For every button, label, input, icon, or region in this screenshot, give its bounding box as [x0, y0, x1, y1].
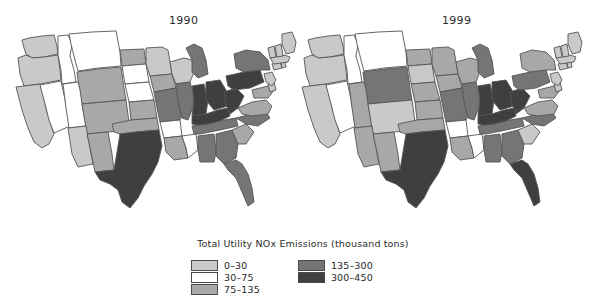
- legend-label: 30–75: [224, 272, 254, 283]
- state-me: [568, 32, 582, 54]
- legend-caption: Total Utility NOx Emissions (thousand to…: [0, 238, 606, 249]
- state-ar: [446, 120, 468, 138]
- state-wy: [363, 67, 412, 104]
- state-ar: [160, 120, 182, 138]
- state-mt: [69, 31, 121, 71]
- state-nh: [561, 44, 569, 57]
- state-wa: [22, 35, 58, 58]
- map-title-1999: 1999: [442, 14, 471, 27]
- state-vt: [268, 46, 276, 58]
- state-ks: [415, 100, 443, 120]
- legend-swatch: [191, 284, 218, 295]
- state-fl: [510, 160, 540, 206]
- legend-label: 300–450: [331, 272, 373, 283]
- state-mt: [355, 31, 407, 71]
- legend-swatch: [298, 260, 325, 271]
- choropleth-map-1990: [2, 30, 302, 235]
- legend-label: 75–135: [224, 284, 260, 295]
- state-fl: [224, 160, 254, 206]
- state-nh: [275, 44, 283, 57]
- state-wa: [308, 35, 344, 58]
- legend-swatch: [298, 272, 325, 283]
- legend-label: 0–30: [224, 260, 247, 271]
- state-nd: [120, 49, 146, 66]
- state-pa: [226, 70, 264, 90]
- state-nd: [406, 49, 432, 66]
- legend-columns: 0–3030–7575–135135–300300–450: [191, 259, 373, 295]
- legend-item: 30–75: [191, 271, 260, 283]
- legend-swatch: [191, 260, 218, 271]
- legend-item: 300–450: [298, 271, 373, 283]
- figure-root: 1990 1999 Total Utility NOx Emissions (t…: [0, 0, 606, 307]
- state-nm: [373, 132, 400, 172]
- map-svg-1990: [2, 30, 302, 235]
- state-va: [238, 100, 272, 116]
- state-mn: [432, 47, 458, 76]
- state-va: [524, 100, 558, 116]
- legend-column-2: 135–300300–450: [298, 259, 373, 283]
- state-or: [18, 55, 61, 86]
- state-ks: [129, 100, 157, 120]
- state-sd: [408, 64, 435, 84]
- legend-item: 0–30: [191, 259, 260, 271]
- legend-item: 75–135: [191, 283, 260, 295]
- choropleth-map-1999: [288, 30, 588, 235]
- state-nm: [87, 132, 114, 172]
- state-ny: [520, 50, 556, 72]
- state-ne: [125, 82, 154, 102]
- legend-item: 135–300: [298, 259, 373, 271]
- state-pa: [512, 70, 550, 90]
- legend-swatch: [191, 272, 218, 283]
- map-svg-1999: [288, 30, 588, 235]
- state-or: [304, 55, 347, 86]
- state-mn: [146, 47, 172, 76]
- state-ny: [234, 50, 270, 72]
- state-wy: [77, 67, 126, 104]
- legend-column-1: 0–3030–7575–135: [191, 259, 260, 295]
- state-sd: [122, 64, 149, 84]
- legend-label: 135–300: [331, 260, 373, 271]
- state-al: [484, 134, 502, 162]
- map-legend: Total Utility NOx Emissions (thousand to…: [0, 238, 606, 307]
- state-vt: [554, 46, 562, 58]
- state-al: [198, 134, 216, 162]
- map-title-1990: 1990: [169, 14, 198, 27]
- state-ne: [411, 82, 440, 102]
